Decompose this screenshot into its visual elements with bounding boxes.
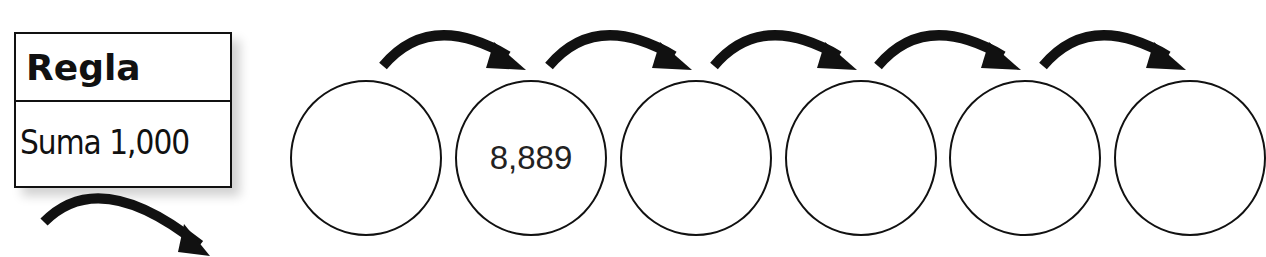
arrow-icon-5 — [1043, 35, 1186, 70]
arrow-icon-1 — [383, 35, 526, 70]
number-circle-5[interactable] — [949, 80, 1101, 236]
number-circle-1[interactable] — [290, 80, 442, 236]
number-circle-4[interactable] — [785, 80, 937, 236]
rule-arrow-icon — [44, 198, 210, 256]
number-circle-3[interactable] — [620, 80, 772, 236]
number-circle-6[interactable] — [1114, 80, 1266, 236]
arrow-icon-2 — [549, 35, 692, 70]
arrow-icon-3 — [714, 35, 857, 70]
arrow-icon-4 — [878, 35, 1021, 70]
number-circle-2[interactable]: 8,889 — [455, 80, 607, 236]
